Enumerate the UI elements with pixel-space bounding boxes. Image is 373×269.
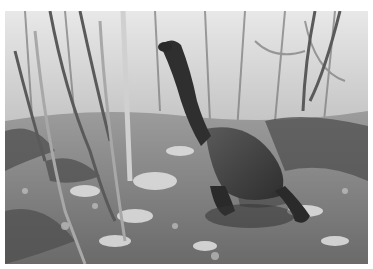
forest-scene	[5, 11, 368, 264]
tortoise-head	[158, 42, 172, 52]
photograph	[5, 11, 368, 264]
tortoise-shadow	[205, 204, 295, 228]
